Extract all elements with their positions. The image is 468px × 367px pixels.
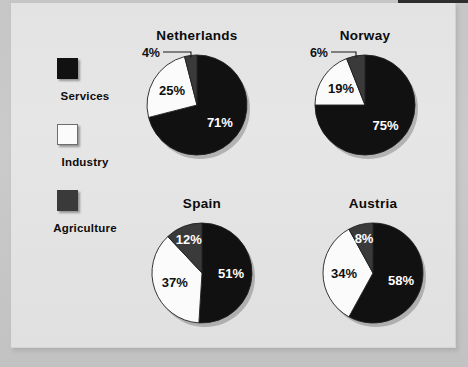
slice-label-agriculture: 12% — [176, 232, 202, 247]
pie-svg: 75%19%6% — [300, 50, 430, 162]
pie-chart-netherlands: Netherlands 71%25%4% — [132, 28, 262, 178]
slice-label-services: 71% — [207, 115, 233, 130]
pie-svg: 58%34%8% — [308, 218, 438, 330]
pie-chart-norway: Norway 75%19%6% — [300, 28, 430, 178]
chart-title-norway: Norway — [300, 28, 430, 43]
legend-label-agriculture: Agriculture — [30, 222, 140, 234]
legend-item-services: Services — [30, 58, 140, 102]
chart-title-austria: Austria — [308, 196, 438, 211]
pie-svg: 71%25%4% — [132, 50, 262, 162]
pie-area-austria: 58%34%8% — [308, 218, 438, 330]
agriculture-swatch-icon — [57, 190, 78, 211]
pie-area-netherlands: 71%25%4% — [132, 50, 262, 162]
services-swatch-icon — [57, 58, 78, 79]
chart-title-spain: Spain — [137, 196, 267, 211]
pie-area-norway: 75%19%6% — [300, 50, 430, 162]
slice-label-industry: 34% — [331, 266, 357, 281]
slice-label-agriculture: 6% — [310, 46, 328, 60]
legend-label-services: Services — [30, 90, 140, 102]
slice-label-agriculture: 8% — [355, 231, 374, 246]
slice-label-services: 58% — [388, 273, 414, 288]
legend-label-industry: Industry — [30, 156, 140, 168]
slice-label-industry: 37% — [162, 275, 188, 290]
slice-label-agriculture: 4% — [142, 46, 160, 60]
chart-title-netherlands: Netherlands — [132, 28, 262, 43]
industry-swatch-icon — [57, 124, 78, 145]
pie-svg: 51%37%12% — [137, 218, 267, 330]
figure-canvas: Services Industry Agriculture Netherland… — [0, 0, 468, 367]
legend-item-industry: Industry — [30, 124, 140, 168]
pie-chart-austria: Austria 58%34%8% — [308, 196, 438, 342]
slice-label-industry: 19% — [328, 81, 354, 96]
pie-area-spain: 51%37%12% — [137, 218, 267, 330]
legend-item-agriculture: Agriculture — [30, 190, 140, 234]
slice-label-services: 75% — [372, 118, 398, 133]
pie-chart-spain: Spain 51%37%12% — [137, 196, 267, 342]
slice-label-industry: 25% — [159, 83, 185, 98]
slice-label-services: 51% — [218, 266, 244, 281]
legend: Services Industry Agriculture — [30, 58, 140, 256]
